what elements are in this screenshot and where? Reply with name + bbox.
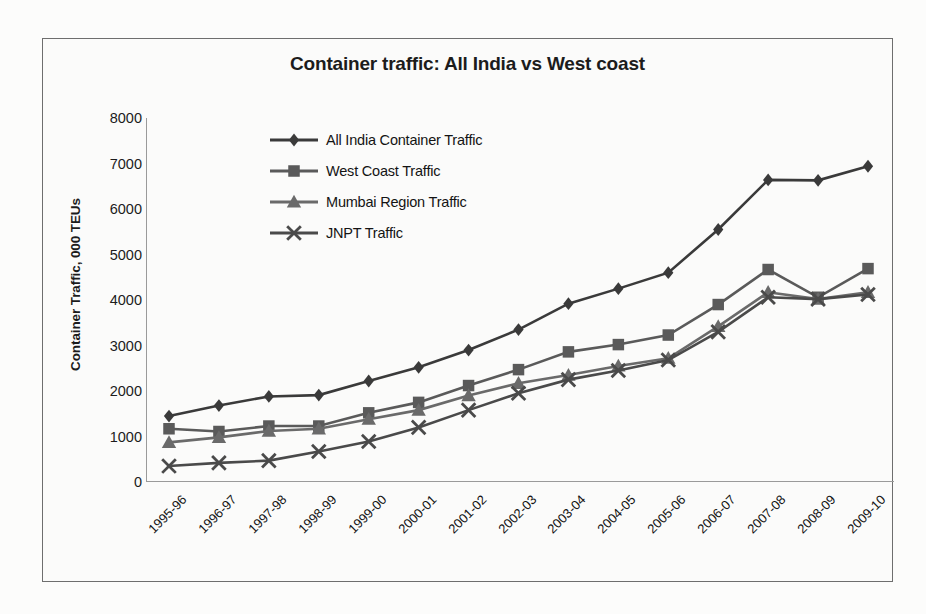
data-point: [163, 423, 175, 435]
x-tick-label: 1999-00: [336, 492, 389, 545]
y-tick-label: 0: [72, 474, 142, 490]
data-point: [563, 346, 575, 358]
x-tick-label: 1995-96: [137, 492, 190, 545]
y-tick-label: 2000: [72, 383, 142, 399]
data-point: [613, 339, 625, 351]
legend-label: Mumbai Region Traffic: [326, 194, 467, 210]
data-point: [462, 403, 476, 417]
x-tick-label: 1998-99: [286, 492, 339, 545]
legend-marker-diamond-icon: [268, 131, 320, 149]
series-plot: [146, 118, 894, 482]
legend-label: JNPT Traffic: [326, 225, 403, 241]
y-tick-label: 5000: [72, 247, 142, 263]
chart-title: Container traffic: All India vs West coa…: [43, 53, 892, 75]
x-tick-label: 2000-01: [386, 492, 439, 545]
x-tick-label: 1996-97: [186, 492, 239, 545]
y-tick-label: 8000: [72, 110, 142, 126]
legend-label: West Coast Traffic: [326, 163, 440, 179]
x-tick-label: 2003-04: [536, 492, 589, 545]
data-point: [813, 174, 823, 187]
legend-marker-triangle-icon: [268, 193, 320, 211]
plot-area: 800070006000500040003000200010000 1995-9…: [146, 118, 894, 482]
x-tick-label: 2007-08: [736, 492, 789, 545]
data-point: [712, 299, 724, 311]
x-tick-label: 1997-98: [236, 492, 289, 545]
chart-frame: Container traffic: All India vs West coa…: [42, 38, 893, 582]
x-tick-label: 2005-06: [636, 492, 689, 545]
data-point: [863, 160, 873, 173]
y-tick-label: 4000: [72, 292, 142, 308]
data-point: [463, 344, 473, 357]
y-tick-label: 6000: [72, 201, 142, 217]
data-point: [513, 364, 525, 376]
data-point: [214, 399, 224, 412]
data-point: [862, 263, 874, 275]
legend-item[interactable]: All India Container Traffic: [268, 130, 482, 150]
chart-page: Container traffic: All India vs West coa…: [0, 0, 926, 614]
data-point: [264, 390, 274, 403]
legend-marker-cross-icon: [268, 224, 320, 242]
data-point: [663, 329, 675, 341]
data-point: [314, 389, 324, 402]
x-tick-label: 2001-02: [436, 492, 489, 545]
x-tick-label: 2009-10: [836, 492, 889, 545]
y-tick-label: 1000: [72, 429, 142, 445]
data-point: [563, 297, 573, 310]
data-point: [164, 410, 174, 423]
y-tick-label: 7000: [72, 156, 142, 172]
legend-label: All India Container Traffic: [326, 132, 482, 148]
x-tick-label: 2004-05: [586, 492, 639, 545]
chart-legend: All India Container TrafficWest Coast Tr…: [268, 130, 482, 243]
y-tick-label: 3000: [72, 338, 142, 354]
legend-item[interactable]: West Coast Traffic: [268, 161, 482, 181]
x-tick-label: 2006-07: [686, 492, 739, 545]
legend-item[interactable]: Mumbai Region Traffic: [268, 192, 482, 212]
data-point: [762, 264, 774, 276]
data-point: [613, 282, 623, 295]
x-tick-label: 2002-03: [486, 492, 539, 545]
x-tick-label: 2008-09: [786, 492, 839, 545]
data-point: [364, 375, 374, 388]
legend-item[interactable]: JNPT Traffic: [268, 223, 482, 243]
data-point: [513, 323, 523, 336]
data-point: [414, 361, 424, 374]
legend-marker-square-icon: [268, 162, 320, 180]
